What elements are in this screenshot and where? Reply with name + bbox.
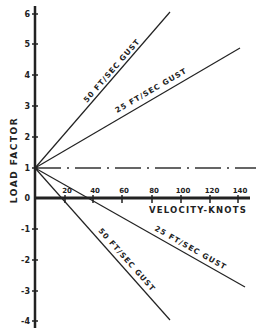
- y-tick-label: 0: [24, 194, 30, 203]
- x-tick-label: 140: [233, 187, 248, 195]
- y-tick-label: -1: [21, 225, 30, 234]
- gust-25-positive-label: 25 FT/SEC GUST: [114, 66, 189, 115]
- x-tick-labels: 20 40 60 80 100 120 140: [62, 187, 247, 195]
- gust-50-negative-label: 50 FT/SEC GUST: [97, 226, 158, 293]
- x-tick-label: 80: [149, 187, 159, 195]
- gust-25-negative-label: 25 FT/SEC GUST: [153, 224, 228, 272]
- gust-load-chart: 6 5 4 3 2 1 0 -1 -2 -3 -4 20 40 60 80 10…: [0, 0, 272, 329]
- y-tick-label: -4: [21, 317, 30, 326]
- y-tick-label: 5: [24, 40, 30, 49]
- y-axis-label: LOAD FACTOR: [9, 117, 19, 203]
- x-tick-label: 60: [119, 187, 129, 195]
- x-tick-label: 40: [90, 187, 100, 195]
- gust-50-positive-label: 50 FT/SEC GUST: [82, 37, 142, 104]
- y-tick-label: 2: [24, 133, 30, 142]
- x-axis-label: VELOCITY-KNOTS: [149, 205, 247, 215]
- y-tick-label: 1: [24, 164, 30, 173]
- y-tick-label: -3: [21, 287, 30, 296]
- x-tick-label: 120: [205, 187, 220, 195]
- y-tick-labels: 6 5 4 3 2 1 0 -1 -2 -3 -4: [21, 10, 30, 326]
- y-tick-label: 3: [24, 102, 30, 111]
- gust-25-positive-line: [35, 48, 240, 168]
- y-tick-label: 4: [24, 71, 30, 80]
- x-tick-label: 100: [176, 187, 191, 195]
- y-tick-label: -2: [21, 256, 30, 265]
- y-tick-label: 6: [24, 10, 30, 19]
